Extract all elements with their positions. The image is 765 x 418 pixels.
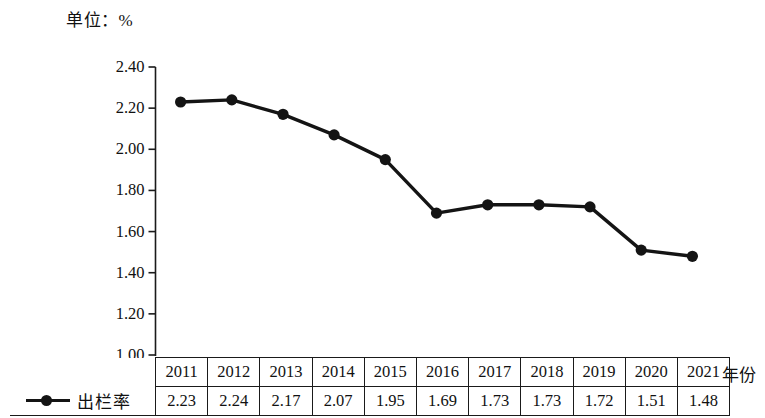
table-cell-value: 2.24 [208, 387, 260, 416]
table-cell-value: 1.72 [573, 387, 625, 416]
table-cell-year: 2015 [364, 358, 416, 387]
table-cell-value: 2.17 [260, 387, 312, 416]
data-point-marker [175, 96, 186, 107]
table-cell-value: 1.95 [364, 387, 416, 416]
legend-line-dot-icon [26, 395, 70, 407]
y-axis-ticks [149, 67, 156, 355]
table-cell-year: 2020 [625, 358, 677, 387]
table-corner-blank [10, 358, 156, 387]
table-cell-value: 1.51 [625, 387, 677, 416]
table-cell-year: 2012 [208, 358, 260, 387]
table-cell-year: 2014 [312, 358, 364, 387]
data-point-marker [482, 199, 493, 210]
data-point-marker [329, 129, 340, 140]
table-cell-value: 1.69 [416, 387, 468, 416]
y-axis-tick-label: 1.60 [93, 224, 145, 241]
data-point-marker [533, 199, 544, 210]
table-cell-value: 2.07 [312, 387, 364, 416]
table-cell-value: 1.73 [469, 387, 521, 416]
series-line-chulanlv [181, 100, 693, 256]
table-cell-year: 2021 [677, 358, 729, 387]
data-point-marker [636, 245, 647, 256]
data-point-marker [584, 201, 595, 212]
data-point-marker [226, 94, 237, 105]
chart-plot-area: 2.402.202.001.801.601.401.201.00 [0, 0, 765, 418]
y-axis-tick-label: 2.40 [93, 59, 145, 76]
table-cell-value: 2.23 [156, 387, 208, 416]
legend-cell: 出栏率 [10, 387, 156, 416]
y-axis-tick-label: 1.40 [93, 265, 145, 282]
table-cell-value: 1.73 [521, 387, 573, 416]
data-point-marker [277, 109, 288, 120]
table-cell-value: 1.48 [677, 387, 729, 416]
table-cell-year: 2017 [469, 358, 521, 387]
table-cell-year: 2018 [521, 358, 573, 387]
data-point-marker [687, 251, 698, 262]
data-table: 2011201220132014201520162017201820192020… [10, 357, 730, 416]
series-markers [175, 94, 698, 262]
table-cell-year: 2011 [156, 358, 208, 387]
table-cell-year: 2013 [260, 358, 312, 387]
legend-series-label: 出栏率 [77, 388, 131, 413]
y-axis-tick-label: 1.20 [93, 306, 145, 323]
data-point-marker [380, 154, 391, 165]
y-axis-tick-label: 2.20 [93, 100, 145, 117]
data-point-marker [431, 208, 442, 219]
table-row-values: 出栏率 2.232.242.172.071.951.691.731.731.72… [10, 387, 730, 416]
y-axis-tick-label: 1.80 [93, 182, 145, 199]
table-cell-year: 2016 [416, 358, 468, 387]
table-row-years: 2011201220132014201520162017201820192020… [10, 358, 730, 387]
y-axis-tick-label: 2.00 [93, 141, 145, 158]
table-cell-year: 2019 [573, 358, 625, 387]
